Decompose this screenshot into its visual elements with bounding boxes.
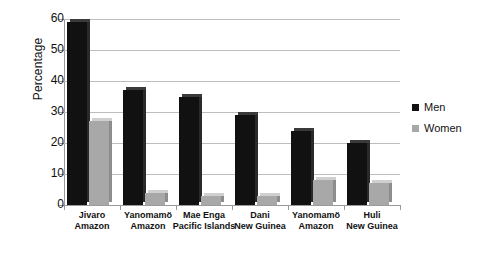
y-axis-tick-label: 20	[30, 135, 64, 149]
y-axis-tick-label: 10	[30, 166, 64, 180]
bar-face	[257, 196, 277, 205]
legend-swatch-icon	[412, 104, 419, 111]
bar-women-2	[201, 196, 221, 205]
bar-face	[67, 22, 87, 205]
category-label-5: HuliNew Guinea	[334, 210, 410, 232]
bar-face	[369, 183, 389, 205]
bar-side	[199, 94, 202, 203]
bar-women-0	[89, 121, 109, 205]
bar-side	[255, 112, 258, 202]
bar-face	[313, 180, 333, 205]
gridline	[64, 19, 400, 20]
bar-men-0	[67, 22, 87, 205]
legend: MenWomen	[412, 101, 462, 143]
bar-women-1	[145, 193, 165, 205]
bar-face	[89, 121, 109, 205]
y-axis-tick-label: 40	[30, 73, 64, 87]
bar-face	[179, 97, 199, 206]
legend-item-men: Men	[412, 101, 462, 113]
gridline	[64, 112, 400, 113]
bar-women-4	[313, 180, 333, 205]
y-axis-tick-label: 30	[30, 104, 64, 118]
bar-face	[201, 196, 221, 205]
category-label-line: New Guinea	[334, 221, 410, 232]
y-axis-tick-label: 0	[30, 197, 64, 211]
bar-women-3	[257, 196, 277, 205]
gridline	[64, 50, 400, 51]
y-axis-tick-label: 60	[30, 11, 64, 25]
category-label-line: Huli	[334, 210, 410, 221]
bar-men-5	[347, 143, 367, 205]
bar-chart: Percentage 0102030405060 JivaroAmazonYan…	[0, 0, 482, 255]
legend-item-women: Women	[412, 122, 462, 134]
bar-face	[347, 143, 367, 205]
legend-swatch-icon	[412, 125, 419, 132]
bar-men-2	[179, 97, 199, 206]
bar-face	[291, 131, 311, 205]
bar-face	[123, 90, 143, 205]
bar-side	[143, 87, 146, 202]
legend-label: Women	[424, 122, 462, 134]
bar-men-1	[123, 90, 143, 205]
bar-side	[333, 177, 336, 202]
bar-men-3	[235, 115, 255, 205]
y-axis-tick-label: 50	[30, 42, 64, 56]
bar-women-5	[369, 183, 389, 205]
legend-label: Men	[424, 101, 445, 113]
bar-side	[109, 118, 112, 202]
bar-face	[235, 115, 255, 205]
bar-face	[145, 193, 165, 205]
gridline	[64, 81, 400, 82]
plot-area	[64, 19, 400, 206]
bar-men-4	[291, 131, 311, 205]
bar-side	[389, 180, 392, 202]
